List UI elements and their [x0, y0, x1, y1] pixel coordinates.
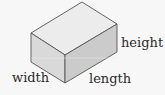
height-label: height: [121, 35, 164, 50]
box-diagram: height width length: [0, 0, 165, 95]
length-label: length: [89, 71, 132, 86]
width-label: width: [12, 70, 50, 85]
